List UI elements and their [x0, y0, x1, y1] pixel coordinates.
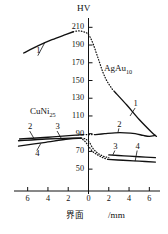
y-tick-label-110: 110	[58, 112, 84, 120]
label-3-right: 3	[111, 142, 120, 151]
series-3-right	[109, 155, 156, 158]
y-tick-label-150: 150	[58, 77, 84, 85]
x-tick-label--6: 6	[18, 195, 38, 203]
x-tick-label-0: 0	[79, 195, 99, 203]
annotation-cuni: CuNi25	[30, 107, 56, 118]
x-axis-unit-label: /mm	[108, 211, 125, 220]
y-tick-label-50: 50	[58, 165, 84, 173]
x-tick-label--2: 2	[58, 195, 78, 203]
hardness-profile-chart: 210190170150130110907050642024611234234H…	[0, 0, 168, 234]
leader-line-6	[113, 151, 115, 155]
label-3-left: 3	[53, 122, 62, 131]
y-tick-label-190: 190	[58, 41, 84, 49]
label-4-right: 4	[133, 142, 142, 151]
label-1-left: 1	[34, 46, 43, 55]
x-tick-label--4: 4	[38, 195, 58, 203]
y-tick-label-210: 210	[58, 23, 84, 31]
x-tick-label-6: 6	[139, 195, 159, 203]
label-2-left: 2	[26, 122, 35, 131]
x-axis-interface-label: 界面	[66, 211, 84, 220]
series-2-right	[96, 133, 156, 137]
x-tick-label-2: 2	[99, 195, 119, 203]
y-tick-label-70: 70	[58, 147, 84, 155]
y-tick-label-130: 130	[58, 94, 84, 102]
label-2-right: 2	[115, 120, 124, 129]
annotation-agau: AgAu10	[104, 64, 132, 75]
label-4-left: 4	[33, 149, 42, 158]
y-tick-label-170: 170	[58, 59, 84, 67]
label-1-right: 1	[131, 99, 140, 108]
series-4-right	[108, 159, 156, 162]
x-tick-label-4: 4	[119, 195, 139, 203]
leader-line-2	[30, 131, 34, 138]
y-axis-title: HV	[77, 4, 90, 13]
